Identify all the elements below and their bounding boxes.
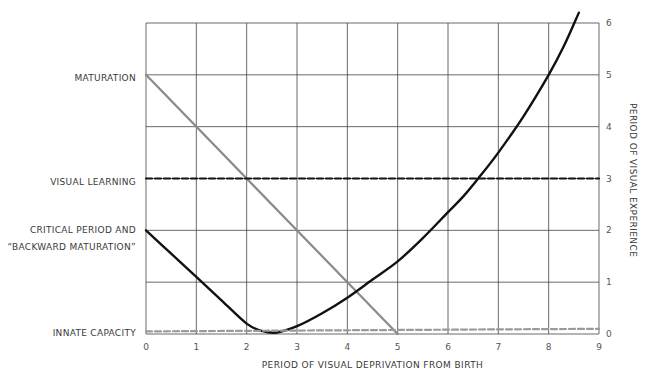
x-tick-label: 1: [189, 342, 203, 352]
series-critical-period-and-backward-maturation: [146, 13, 579, 333]
x-tick-label: 5: [391, 342, 405, 352]
y-tick-label: 1: [606, 276, 612, 288]
y-tick-label: 5: [606, 69, 612, 81]
label-visual-learning: VISUAL LEARNING: [50, 176, 136, 189]
x-tick-label: 4: [340, 342, 354, 352]
series-innate-capacity: [146, 329, 599, 332]
label-critical-period-line2: “BACKWARD MATURATION”: [7, 241, 136, 254]
x-tick-label: 0: [139, 342, 153, 352]
y-tick-label: 2: [606, 224, 612, 236]
x-tick-label: 2: [240, 342, 254, 352]
y-tick-label: 6: [606, 17, 612, 29]
y-tick-label: 4: [606, 121, 612, 133]
label-innate-capacity: INNATE CAPACITY: [53, 327, 136, 340]
x-tick-label: 3: [290, 342, 304, 352]
chart: MATURATION VISUAL LEARNING CRITICAL PERI…: [0, 0, 645, 377]
y-tick-label: 3: [606, 173, 612, 185]
x-tick-label: 8: [542, 342, 556, 352]
label-critical-period-line1: CRITICAL PERIOD AND: [30, 224, 136, 237]
x-tick-label: 6: [441, 342, 455, 352]
series-maturation: [146, 75, 398, 334]
y-axis-label: PERIOD OF VISUAL EXPERIENCE: [624, 70, 638, 290]
x-tick-label: 7: [491, 342, 505, 352]
y-tick-label: 0: [606, 328, 612, 340]
label-maturation: MATURATION: [74, 72, 136, 85]
x-tick-label: 9: [592, 342, 606, 352]
x-axis-label: PERIOD OF VISUAL DEPRIVATION FROM BIRTH: [146, 360, 599, 370]
